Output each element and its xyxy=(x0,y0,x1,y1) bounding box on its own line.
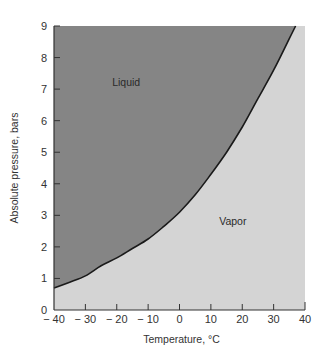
x-tick-label: − 10 xyxy=(137,313,159,325)
x-axis-title: Temperature, °C xyxy=(143,333,220,345)
y-tick-label: 2 xyxy=(41,241,47,253)
x-tick-label: − 30 xyxy=(75,313,97,325)
vapor-region-label: Vapor xyxy=(219,215,247,227)
x-tick-label: 10 xyxy=(205,313,217,325)
y-tick-label: 0 xyxy=(41,304,47,316)
y-tick-label: 1 xyxy=(41,272,47,284)
x-tick-label: 40 xyxy=(299,313,311,325)
y-tick-label: 5 xyxy=(41,146,47,158)
y-tick-label: 7 xyxy=(41,83,47,95)
plot-area xyxy=(54,26,305,310)
x-tick-label: 0 xyxy=(176,313,182,325)
y-tick-label: 3 xyxy=(41,209,47,221)
y-tick-label: 8 xyxy=(41,52,47,64)
x-tick-label: − 20 xyxy=(106,313,128,325)
x-tick-label: 30 xyxy=(268,313,280,325)
y-tick-label: 4 xyxy=(41,178,47,190)
x-tick-label: 20 xyxy=(236,313,248,325)
y-tick-label: 9 xyxy=(41,20,47,32)
y-tick-label: 6 xyxy=(41,115,47,127)
liquid-region-label: Liquid xyxy=(112,76,140,88)
phase-diagram-chart: − 40− 30− 20− 10010203040 0123456789 Liq… xyxy=(0,0,324,354)
y-axis-title: Absolute pressure, bars xyxy=(8,113,20,224)
